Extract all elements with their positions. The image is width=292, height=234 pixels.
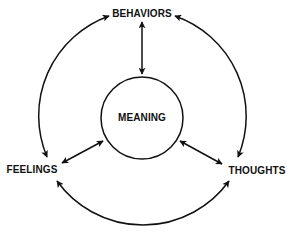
node-feelings-label: FEELINGS: [7, 164, 58, 176]
node-meaning-label: MEANING: [118, 112, 166, 124]
arc-behaviors-thoughts: [175, 16, 246, 157]
arc-feelings-thoughts: [57, 181, 229, 225]
arrow-meaning-thoughts: [180, 141, 222, 164]
node-thoughts-label: THOUGHTS: [229, 165, 286, 177]
arrow-meaning-feelings: [62, 141, 103, 163]
node-behaviors-label: BEHAVIORS: [112, 8, 172, 20]
arc-behaviors-feelings: [39, 16, 109, 157]
